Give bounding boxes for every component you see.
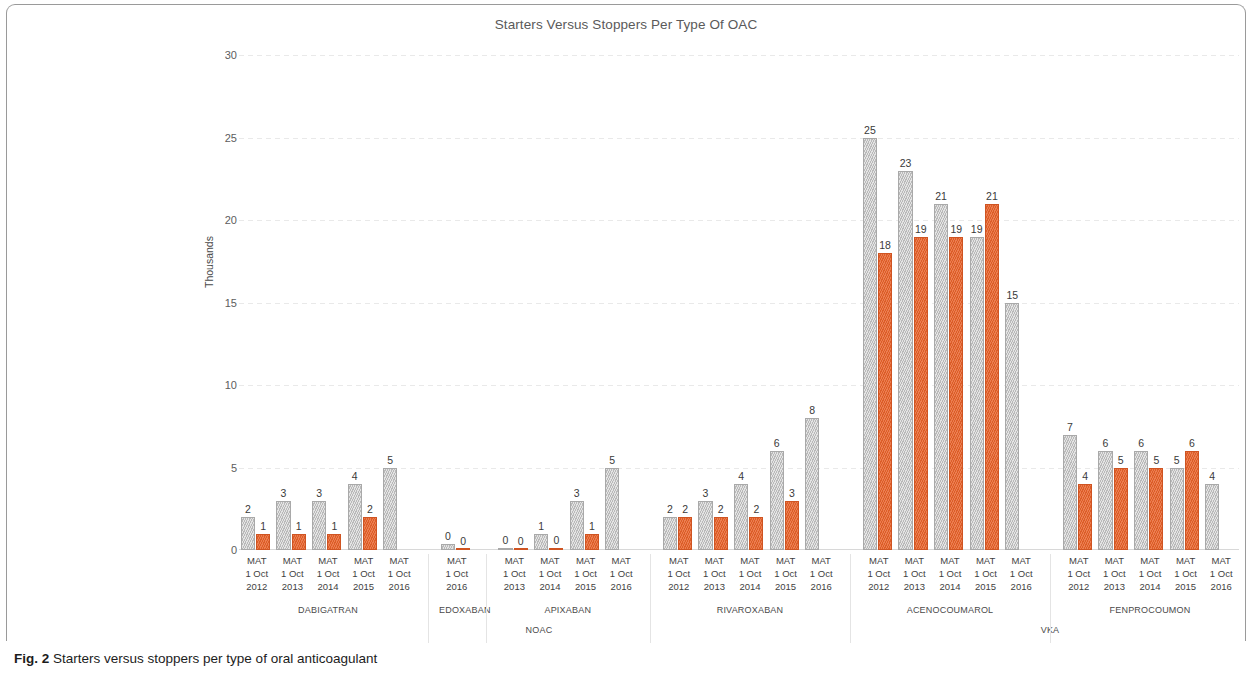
bar-value-label: 3: [316, 487, 322, 499]
drug-name-label: ACENOCOUMAROL: [861, 605, 1039, 615]
bar-stoppers[interactable]: [1114, 468, 1128, 551]
bar-starters[interactable]: [663, 517, 677, 550]
bar-starters[interactable]: [348, 484, 362, 550]
bar-stoppers[interactable]: [714, 517, 728, 550]
bar-pair: 42: [732, 55, 768, 550]
bar-value-label: 21: [986, 190, 998, 202]
x-axis-tick-label: MAT1 Oct2016: [439, 554, 475, 593]
bar-value-label: 5: [609, 454, 615, 466]
bar-starters[interactable]: [1005, 303, 1019, 551]
bar-stoppers[interactable]: [292, 534, 306, 551]
bar-starters[interactable]: [312, 501, 326, 551]
bar-pair: 1921: [968, 55, 1004, 550]
bar-stoppers[interactable]: [327, 534, 341, 551]
bar-value-label: 2: [245, 503, 251, 515]
bar-value-label: 3: [574, 487, 580, 499]
bar-value-label: 1: [538, 520, 544, 532]
bar-stoppers[interactable]: [678, 517, 692, 550]
bar-pair: 31: [275, 55, 311, 550]
bar-pair: 74: [1061, 55, 1097, 550]
bar-pair: 4: [1203, 55, 1239, 550]
bar-pair: 8: [803, 55, 839, 550]
bar-starters[interactable]: [805, 418, 819, 550]
bar-stoppers[interactable]: [514, 548, 528, 550]
x-axis-tick-label: MAT1 Oct2012: [1061, 554, 1097, 593]
bar-group: 0010315: [497, 55, 639, 550]
bar-groups: 2131314250000103152232426382518231921191…: [239, 55, 1239, 550]
bar-value-label: 1: [589, 520, 595, 532]
bar-value-label: 2: [682, 503, 688, 515]
bar-stoppers[interactable]: [914, 237, 928, 551]
bar-pair: 56: [1168, 55, 1204, 550]
bar-starters[interactable]: [970, 237, 984, 551]
bar-starters[interactable]: [1134, 451, 1148, 550]
bar-stoppers[interactable]: [878, 253, 892, 550]
x-axis-tick-label: MAT1 Oct2013: [697, 554, 733, 593]
bar-starters[interactable]: [605, 468, 619, 551]
y-axis-tick-label: 15: [197, 297, 237, 309]
bar-starters[interactable]: [534, 534, 548, 551]
y-axis-tick-label: 0: [197, 544, 237, 556]
bar-pair: 32: [697, 55, 733, 550]
bar-stoppers[interactable]: [1078, 484, 1092, 550]
bar-starters[interactable]: [570, 501, 584, 551]
drug-name-band: DABIGATRANEDOXABANAPIXABANRIVAROXABANACE…: [239, 605, 1239, 623]
bar-value-label: 6: [1138, 437, 1144, 449]
bar-stoppers[interactable]: [1185, 451, 1199, 550]
bar-starters[interactable]: [498, 548, 512, 550]
bar-starters[interactable]: [770, 451, 784, 550]
bar-value-label: 6: [774, 437, 780, 449]
x-axis-tick-label: MAT1 Oct2012: [239, 554, 275, 593]
y-axis-tick-label: 25: [197, 132, 237, 144]
plot-area: 2131314250000103152232426382518231921191…: [239, 55, 1239, 550]
bar-starters[interactable]: [698, 501, 712, 551]
bar-starters[interactable]: [441, 544, 455, 550]
bar-stoppers[interactable]: [1149, 468, 1163, 551]
bar-value-label: 1: [260, 520, 266, 532]
bar-starters[interactable]: [1063, 435, 1077, 551]
bar-stoppers[interactable]: [985, 204, 999, 551]
bar-value-label: 19: [915, 223, 927, 235]
bar-stoppers[interactable]: [949, 237, 963, 551]
y-axis-tick-label: 10: [197, 379, 237, 391]
bar-stoppers[interactable]: [785, 501, 799, 551]
bar-value-label: 3: [789, 487, 795, 499]
figure-caption: Fig. 2 Starters versus stoppers per type…: [14, 651, 377, 666]
bar-pair: 42: [346, 55, 382, 550]
bar-starters[interactable]: [1170, 468, 1184, 551]
bar-value-label: 15: [1006, 289, 1018, 301]
x-axis-tick-label: MAT1 Oct2013: [497, 554, 533, 593]
axis-separator: [850, 554, 851, 643]
bar-value-label: 0: [553, 534, 559, 546]
x-axis-tick-label: MAT1 Oct2014: [532, 554, 568, 593]
bar-pair: 31: [310, 55, 346, 550]
bar-starters[interactable]: [1098, 451, 1112, 550]
bar-stoppers[interactable]: [749, 517, 763, 550]
caption-text: Starters versus stoppers per type of ora…: [53, 651, 377, 666]
bar-value-label: 2: [753, 503, 759, 515]
bar-pair: 22: [661, 55, 697, 550]
bar-value-label: 1: [296, 520, 302, 532]
bar-stoppers[interactable]: [585, 534, 599, 551]
bar-stoppers[interactable]: [363, 517, 377, 550]
bar-starters[interactable]: [276, 501, 290, 551]
bar-starters[interactable]: [898, 171, 912, 551]
x-axis-tick-label: MAT1 Oct2012: [661, 554, 697, 593]
bar-stoppers[interactable]: [549, 548, 563, 550]
bar-starters[interactable]: [383, 468, 397, 551]
bar-starters[interactable]: [1205, 484, 1219, 550]
bar-stoppers[interactable]: [456, 548, 470, 550]
bar-value-label: 2: [718, 503, 724, 515]
bar-value-label: 5: [1153, 454, 1159, 466]
axis-separator: [486, 554, 487, 643]
bar-starters[interactable]: [934, 204, 948, 551]
bar-starters[interactable]: [734, 484, 748, 550]
bar-starters[interactable]: [241, 517, 255, 550]
bar-pair: 2319: [897, 55, 933, 550]
bar-value-label: 18: [879, 239, 891, 251]
bar-stoppers[interactable]: [256, 534, 270, 551]
bar-pair: 63: [768, 55, 804, 550]
bar-pair: 10: [532, 55, 568, 550]
bar-value-label: 7: [1067, 421, 1073, 433]
bar-starters[interactable]: [863, 138, 877, 551]
